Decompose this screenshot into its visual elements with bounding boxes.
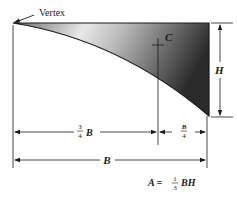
spandrel-shape [13, 23, 209, 116]
quarter-denominator: 4 [182, 132, 186, 140]
spandrel-diagram: Vertex C H 3 4 B B 4 B [0, 0, 237, 201]
area-formula: A = 1 3 BH [147, 175, 197, 192]
centroid-label: C [165, 31, 173, 43]
height-label: H [214, 64, 224, 76]
base-dimension: B [15, 154, 205, 166]
three-quarter-b-dimension: 3 4 B [15, 123, 156, 140]
vertex-callout: Vertex [13, 7, 65, 23]
formula-fraction-numerator: 1 [173, 175, 177, 183]
vertex-label: Vertex [39, 7, 65, 18]
formula-fraction-denominator: 3 [173, 184, 177, 192]
three-quarter-variable: B [85, 127, 93, 138]
three-quarter-denominator: 4 [78, 132, 82, 140]
quarter-numerator: B [181, 123, 187, 131]
formula-lhs: A = [147, 177, 163, 188]
height-dimension: H [211, 23, 233, 117]
formula-rhs: BH [180, 177, 197, 188]
quarter-b-dimension: B 4 [160, 123, 205, 140]
base-label: B [102, 154, 110, 166]
three-quarter-numerator: 3 [78, 123, 82, 131]
